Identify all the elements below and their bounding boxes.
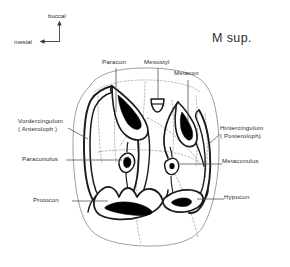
figure-page: M sup. buccal mesial Paracon Mesostyl Me… [0, 0, 290, 267]
label-hypocon: Hypocon [224, 193, 249, 201]
orientation-label-buccal: buccal [48, 12, 66, 19]
figure-title: M sup. [212, 31, 252, 45]
label-hintercingulum: Hintercingulum ( Posteroloph) [220, 124, 263, 140]
mesial-arrow-head [40, 39, 45, 43]
label-protocon: Protocon [33, 196, 59, 204]
label-paracon: Paracon [102, 58, 126, 66]
label-mesostyl: Mesostyl [144, 58, 170, 66]
orientation-label-mesial: mesial [14, 38, 32, 45]
label-vordercingulum-line2: ( Anteroloph ) [18, 125, 63, 133]
orientation-indicator [40, 21, 62, 44]
label-paraconulus: Paraconulus [22, 155, 58, 163]
label-metaconulus: Metaconulus [222, 157, 259, 165]
label-vordercingulum: Vordercingulum ( Anteroloph ) [18, 117, 63, 133]
label-vordercingulum-line1: Vordercingulum [18, 117, 63, 125]
label-hintercingulum-line1: Hintercingulum [220, 124, 263, 132]
buccal-arrow-head [57, 21, 61, 26]
label-metacon: Metacon [174, 69, 199, 77]
paraconulus-wear-facet [124, 157, 132, 167]
label-hintercingulum-line2: ( Posteroloph) [220, 132, 263, 140]
metaconulus-wear-facet [169, 163, 174, 169]
